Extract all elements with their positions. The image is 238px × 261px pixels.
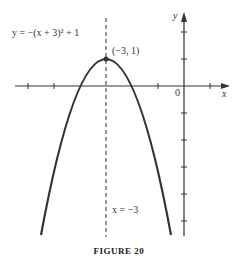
equation-label: y = −(x + 3)² + 1 (12, 27, 79, 38)
axis-of-symmetry-label: x = −3 (112, 204, 138, 215)
y-axis-label: y (173, 10, 177, 21)
vertex-label: (−3, 1) (112, 45, 139, 56)
x-axis-label: x (222, 88, 226, 99)
y-axis-arrow-icon (181, 12, 187, 22)
origin-label: 0 (175, 87, 180, 98)
parabola-graph (0, 0, 238, 261)
vertex-point (104, 57, 109, 62)
figure-caption: FIGURE 20 (0, 246, 238, 256)
